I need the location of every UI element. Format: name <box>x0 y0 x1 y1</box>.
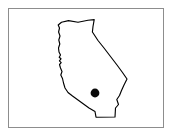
map-figure: California California state outline map <box>0 0 173 137</box>
location-marker-icon[interactable] <box>91 89 100 98</box>
map-canvas <box>0 0 173 137</box>
california-state-outline <box>58 20 127 118</box>
